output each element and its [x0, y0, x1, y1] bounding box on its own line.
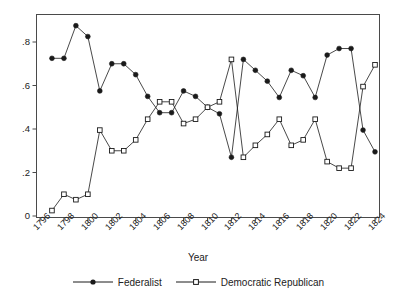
data-series-group — [50, 23, 378, 213]
y-tick-label: 0 — [12, 210, 30, 221]
plot-frame — [37, 15, 380, 218]
y-tick-label: .2 — [12, 167, 30, 178]
y-tick-label: .8 — [12, 36, 30, 47]
legend-label: Democratic Republican — [221, 277, 324, 288]
filled-circle-icon — [72, 276, 114, 288]
chart-legend: FederalistDemocratic Republican — [0, 276, 396, 288]
legend-item-democratic-republican[interactable]: Democratic Republican — [175, 276, 324, 288]
chart-figure: 0.2.4.6.8 179617981800180218041806180818… — [0, 0, 396, 299]
series-federalist — [50, 23, 378, 159]
legend-item-federalist[interactable]: Federalist — [72, 276, 162, 288]
y-tick-label: .6 — [12, 80, 30, 91]
open-square-icon — [175, 276, 217, 288]
x-axis-title: Year — [0, 252, 396, 263]
legend-label: Federalist — [118, 277, 162, 288]
y-tick-label: .4 — [12, 123, 30, 134]
series-democratic-republican — [50, 57, 378, 213]
